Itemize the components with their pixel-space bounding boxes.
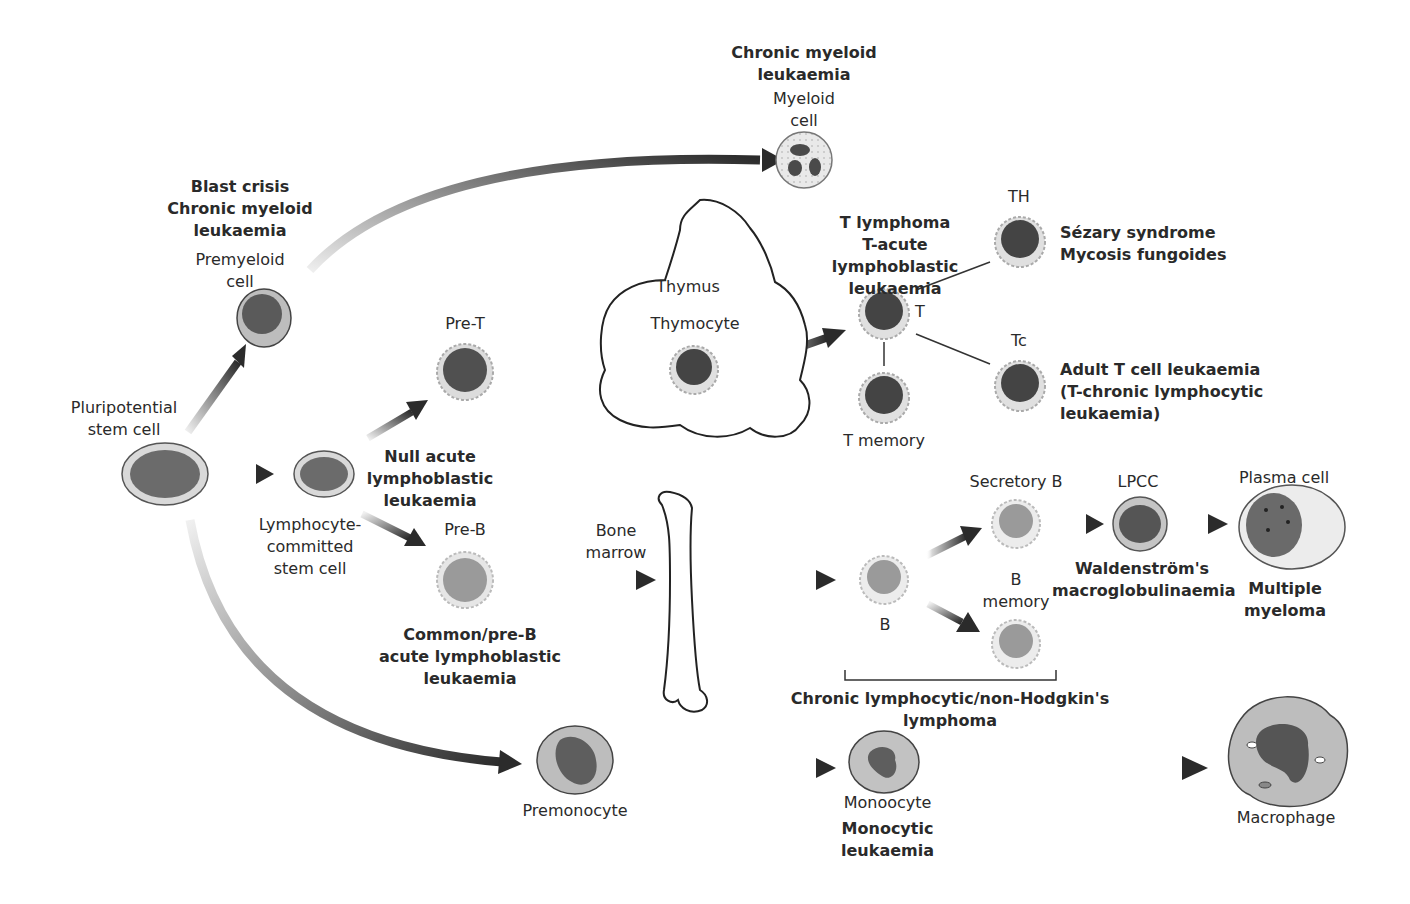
myeloid-disease-label: Chronic myeloid leukaemia: [714, 42, 894, 86]
plasma-cell-label: Plasma cell: [1228, 467, 1340, 489]
connector-t-tc: [916, 334, 990, 364]
lymphocyte-committed-label: Lymphocyte- committed stem cell: [250, 514, 370, 580]
t-disease-label: T lymphoma T-acute lymphoblastic leukaem…: [800, 212, 990, 300]
plasma-disease-label: Multiple myeloma: [1230, 578, 1340, 622]
cell-b: [860, 556, 908, 604]
cell-pre-t: [437, 344, 493, 400]
th-label: TH: [996, 186, 1042, 208]
thymocyte-label: Thymocyte: [640, 313, 750, 335]
cell-t-memory: [859, 373, 909, 423]
cell-myeloid: [776, 132, 832, 188]
b-group-bracket: [845, 670, 1056, 680]
bone-marrow-label: Bone marrow: [576, 520, 656, 564]
cell-tc: [995, 361, 1045, 411]
null-all-disease-label: Null acute lymphoblastic leukaemia: [355, 446, 505, 512]
arrow-to-premyeloid: [188, 362, 238, 432]
cell-pluripotential: [122, 443, 208, 505]
cell-thymocyte: [670, 346, 718, 394]
pre-b-disease-label: Common/pre-B acute lymphoblastic leukaem…: [370, 624, 570, 690]
cell-premyeloid: [237, 289, 291, 347]
tc-label: Tc: [996, 330, 1042, 352]
bone-outline: [659, 492, 707, 712]
thymus-label: Thymus: [640, 276, 736, 298]
cell-secretory-b: [992, 500, 1040, 548]
cell-th: [995, 217, 1045, 267]
pre-b-label: Pre-B: [425, 519, 505, 541]
premyeloid-cell-label: Premyeloid cell: [180, 249, 300, 293]
myeloid-cell-label: Myeloid cell: [744, 88, 864, 132]
monocyte-disease-label: Monocytic leukaemia: [830, 818, 945, 862]
lineage-diagram: [0, 0, 1410, 904]
cell-plasma: [1239, 485, 1345, 569]
b-label: B: [870, 614, 900, 636]
arrow-to-b-memory: [928, 604, 962, 622]
cell-macrophage: [1229, 697, 1348, 807]
pre-t-label: Pre-T: [425, 313, 505, 335]
pluripotential-label: Pluripotential stem cell: [56, 397, 192, 441]
t-label: T: [910, 301, 930, 323]
b-group-disease-label: Chronic lymphocytic/non-Hodgkin's lympho…: [790, 688, 1110, 732]
cell-b-memory: [992, 620, 1040, 668]
tc-disease-label: Adult T cell leukaemia (T-chronic lympho…: [1060, 359, 1280, 425]
secretory-b-label: Secretory B: [960, 471, 1072, 493]
t-memory-label: T memory: [824, 430, 944, 452]
arrow-to-secretory-b: [926, 536, 966, 556]
monocyte-label: Monoocyte: [830, 792, 945, 814]
cell-monocyte: [849, 731, 919, 793]
lpcc-label: LPCC: [1108, 471, 1168, 493]
cell-lpcc: [1113, 497, 1167, 551]
lpcc-disease-label: Waldenström's macroglobulinaemia: [1052, 558, 1232, 602]
premyeloid-disease-label: Blast crisis Chronic myeloid leukaemia: [150, 176, 330, 242]
premonocyte-label: Premonocyte: [510, 800, 640, 822]
b-memory-label: B memory: [980, 569, 1052, 613]
cell-pre-b: [437, 552, 493, 608]
macrophage-label: Macrophage: [1224, 807, 1348, 829]
cell-lymphocyte-committed: [294, 451, 354, 497]
arrow-to-pre-t: [368, 412, 412, 438]
th-disease-label: Sézary syndrome Mycosis fungoides: [1060, 222, 1260, 266]
cell-premonocyte: [537, 726, 613, 794]
